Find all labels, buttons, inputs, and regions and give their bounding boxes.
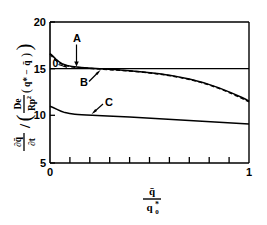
annotation-label-b: B [80, 76, 88, 88]
annotation-label-c: C [105, 96, 113, 108]
y-label-q-star: q* [22, 77, 32, 87]
y-label-q-bar: q̄ [22, 60, 32, 66]
y-label-paren-open: ( [12, 115, 36, 122]
chart-figure: 20 15 10 5 0 1 0 A B C ∂q̄ ∂t [0, 0, 267, 225]
y-label-Rp: Rp [27, 99, 37, 111]
y-tick-label-5: 5 [40, 157, 46, 169]
x-label-numerator: q̄ [149, 185, 156, 197]
x-label-denominator-superscript: * [155, 200, 159, 209]
y-label-De: De [13, 98, 23, 109]
y-label-paren-close: ) [12, 44, 36, 51]
annotation-label-a: A [73, 32, 81, 44]
x-tick-label-0: 0 [47, 166, 53, 178]
y-label-inner-paren-close: ) [19, 53, 33, 57]
y-label-denom-partial-t: ∂t [27, 137, 37, 146]
curve-c [50, 106, 249, 124]
y-label-minus: − [22, 69, 32, 74]
y-label-divide-slash: / [17, 123, 33, 129]
x-axis-label: q̄ q 0 * [143, 185, 161, 216]
annotation-arrowhead-a [74, 62, 79, 67]
y-axis-label: ∂q̄ ∂t / ( De Rp 2 ( q* − q̄ ) ) [12, 44, 37, 152]
y-label-numer-partial-q: ∂q̄ [13, 136, 23, 147]
y-tick-label-20: 20 [34, 16, 46, 28]
x-tick-label-1: 1 [246, 166, 252, 178]
x-label-denominator-q: q [146, 201, 153, 213]
y-label-Rp-exponent: 2 [25, 96, 32, 99]
y-tick-label-15: 15 [34, 63, 46, 75]
x-tick-marks [70, 157, 229, 163]
annotation-label-0: 0 [53, 57, 59, 69]
x-label-denominator-subscript: 0 [155, 208, 159, 216]
y-label-inner-paren-open: ( [19, 89, 33, 93]
